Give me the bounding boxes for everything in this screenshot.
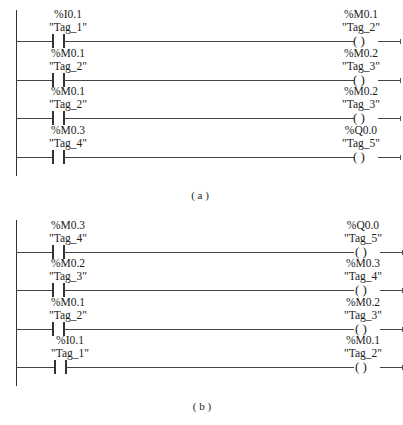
wire	[16, 329, 52, 330]
wire	[64, 290, 354, 291]
coil-icon: ( )	[355, 283, 367, 297]
contact-tag: "Tag_2"	[38, 98, 98, 111]
wire	[64, 41, 354, 42]
contact-address: %M0.1	[38, 85, 98, 98]
rung-end-icon	[400, 155, 401, 160]
contact-tag: "Tag_1"	[40, 347, 100, 360]
contact-no-icon	[54, 360, 56, 374]
coil-address: %M0.1	[336, 8, 386, 21]
contact-address: %M0.1	[38, 296, 98, 309]
wire	[64, 118, 354, 119]
wire	[16, 41, 52, 42]
coil-icon: ( )	[353, 150, 365, 164]
contact-tag: "Tag_2"	[38, 309, 98, 322]
rung-4: %M0.3 "Tag_4" %Q0.0 "Tag_5" ( )	[16, 124, 403, 162]
contact-address: %M0.1	[38, 47, 98, 60]
rung-end-icon	[400, 39, 401, 44]
rung-3: %M0.1 "Tag_2" %M0.2 "Tag_3" ( )	[16, 296, 403, 334]
contact-no-icon	[52, 34, 54, 48]
rung-1: %I0.1 "Tag_1" %M0.1 "Tag_2" ( )	[16, 8, 403, 46]
contact-address: %M0.2	[38, 257, 98, 270]
wire	[380, 329, 402, 330]
contact-address: %I0.1	[38, 8, 98, 21]
contact-no-icon	[52, 150, 54, 164]
caption-b: ( b )	[172, 400, 232, 412]
coil-icon: ( )	[353, 111, 365, 125]
wire	[16, 118, 52, 119]
wire	[16, 157, 52, 158]
wire	[16, 80, 52, 81]
coil-address: %M0.2	[336, 85, 386, 98]
wire	[16, 367, 54, 368]
caption-a: ( a )	[170, 189, 230, 201]
coil-icon: ( )	[355, 360, 367, 374]
wire	[64, 252, 354, 253]
wire	[380, 290, 402, 291]
ladder-diagram-a: %I0.1 "Tag_1" %M0.1 "Tag_2" ( ) %M0.1 "T…	[0, 0, 403, 210]
rung-1: %M0.3 "Tag_4" %Q0.0 "Tag_5" ( )	[16, 219, 403, 257]
rung-2: %M0.1 "Tag_2" %M0.2 "Tag_3" ( )	[16, 47, 403, 85]
coil-address: %M0.2	[338, 296, 388, 309]
contact-tag: "Tag_4"	[38, 232, 98, 245]
contact-address: %M0.3	[38, 219, 98, 232]
contact-no-icon	[52, 283, 54, 297]
contact-no-icon	[52, 111, 54, 125]
wire	[64, 80, 354, 81]
rung-4: %I0.1 "Tag_1" %M0.1 "Tag_2" ( )	[16, 334, 403, 372]
wire	[378, 118, 400, 119]
contact-tag: "Tag_2"	[38, 60, 98, 73]
wire	[16, 290, 52, 291]
contact-tag: "Tag_4"	[38, 137, 98, 150]
wire	[66, 367, 354, 368]
wire	[64, 157, 354, 158]
coil-address: %M0.1	[338, 334, 388, 347]
rung-end-icon	[400, 78, 401, 83]
coil-address: %M0.3	[338, 257, 388, 270]
coil-address: %Q0.0	[338, 219, 388, 232]
wire	[64, 329, 354, 330]
wire	[16, 252, 52, 253]
coil-icon: ( )	[353, 34, 365, 48]
rung-2: %M0.2 "Tag_3" %M0.3 "Tag_4" ( )	[16, 257, 403, 295]
coil-address: %Q0.0	[336, 124, 386, 137]
rung-3: %M0.1 "Tag_2" %M0.2 "Tag_3" ( )	[16, 85, 403, 123]
ladder-diagram-b: %M0.3 "Tag_4" %Q0.0 "Tag_5" ( ) %M0.2 "T…	[0, 212, 403, 425]
wire	[380, 252, 402, 253]
wire	[378, 41, 400, 42]
wire	[378, 157, 400, 158]
wire	[378, 80, 400, 81]
wire	[380, 367, 402, 368]
contact-address: %I0.1	[40, 334, 100, 347]
contact-tag: "Tag_3"	[38, 270, 98, 283]
rung-end-icon	[400, 116, 401, 121]
contact-tag: "Tag_1"	[38, 21, 98, 34]
contact-address: %M0.3	[38, 124, 98, 137]
coil-address: %M0.2	[336, 47, 386, 60]
